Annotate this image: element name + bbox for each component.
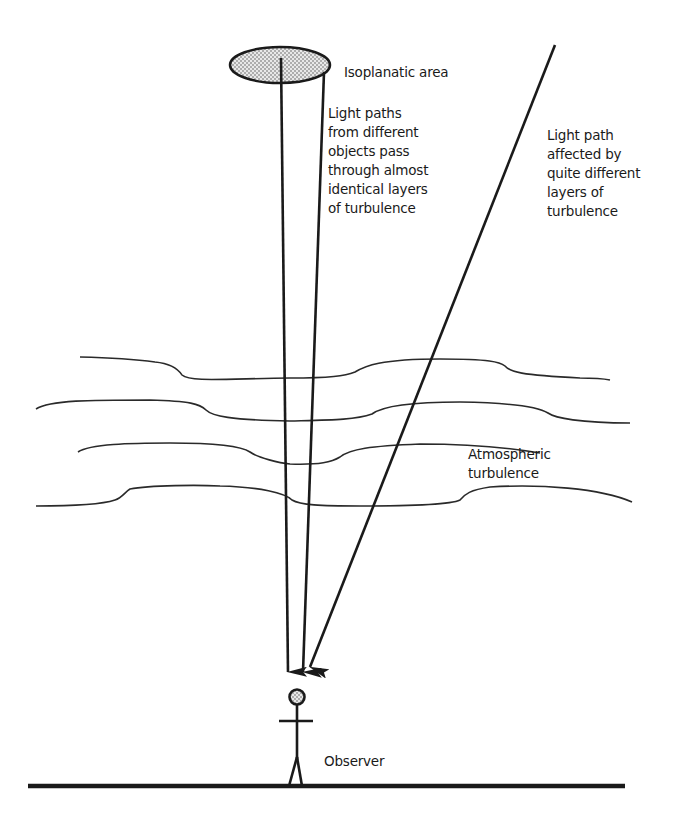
light-paths-same-label: Light paths from different objects pass … [328, 104, 428, 218]
turbulence-layer-1 [80, 357, 610, 380]
label-line: of turbulence [328, 199, 428, 218]
label-line: from different [328, 123, 428, 142]
label-line: quite different [547, 164, 640, 183]
observer-label: Observer [324, 752, 384, 771]
label-line: affected by [547, 145, 640, 164]
turbulence-layer-4 [36, 485, 632, 506]
atmospheric-turbulence-label: Atmospheric turbulence [468, 445, 551, 483]
turbulence-layer-2 [36, 400, 630, 423]
label-line: turbulence [468, 464, 551, 483]
label-line: through almost [328, 161, 428, 180]
label-line: Light paths [328, 104, 428, 123]
label-line: turbulence [547, 202, 640, 221]
label-line: identical layers [328, 180, 428, 199]
turbulence-layers [36, 357, 632, 506]
observer-head [290, 690, 305, 705]
label-line: Atmospheric [468, 445, 551, 464]
light-ray-1 [281, 58, 288, 672]
label-line: Light path [547, 126, 640, 145]
label-line: objects pass [328, 142, 428, 161]
light-ray-2 [303, 72, 324, 672]
light-path-different-label: Light path affected by quite different l… [547, 126, 640, 221]
observer-figure [279, 690, 313, 787]
label-line: layers of [547, 183, 640, 202]
isoplanatic-area-label: Isoplanatic area [344, 63, 448, 82]
